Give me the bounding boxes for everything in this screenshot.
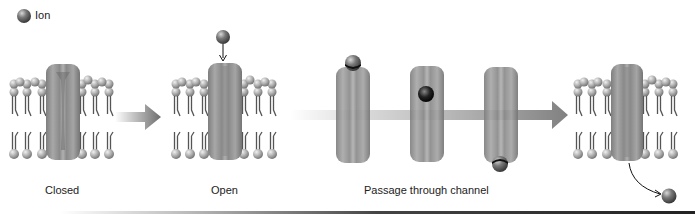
closed-to-open-arrow [115, 104, 161, 130]
stage-label-passage: Passage through channel [364, 184, 489, 196]
passage-channel-2 [410, 66, 444, 162]
closed-channel [46, 64, 80, 160]
stage-label-closed: Closed [45, 184, 79, 196]
stage-label-open: Open [211, 184, 238, 196]
final-channel [611, 64, 643, 161]
diagram-canvas [0, 0, 695, 215]
legend-ion-icon [17, 9, 31, 23]
incoming-ion-icon [216, 30, 230, 61]
released-ion-icon [629, 163, 677, 204]
passage-channel-3 [484, 67, 518, 172]
passage-channel-1 [336, 55, 370, 163]
bottom-rule [60, 211, 695, 214]
legend-ion-label: Ion [35, 9, 50, 21]
open-channel [208, 63, 242, 160]
